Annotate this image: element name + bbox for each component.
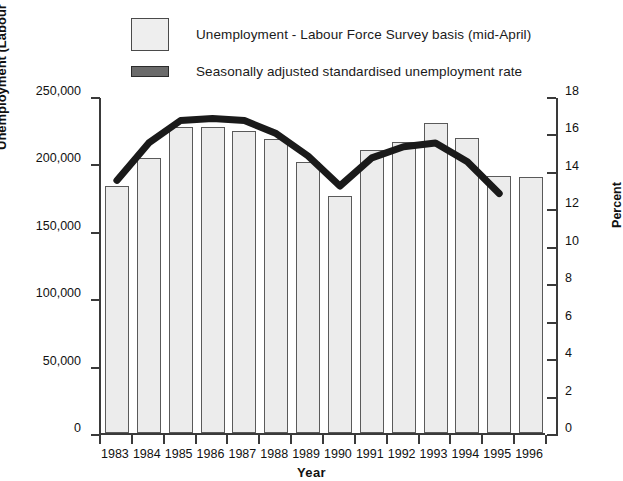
tick-mark [547, 97, 556, 99]
legend-item-rate: Seasonally adjusted standardised unemplo… [131, 64, 522, 79]
x-axis-label-1987: 1987 [228, 447, 256, 461]
bar-slot [165, 98, 197, 433]
tick-label: 50,000 [43, 354, 81, 368]
bar-slot [420, 98, 452, 433]
tick-mark [547, 209, 556, 211]
x-axis-tick [386, 435, 388, 444]
legend-item-label: Seasonally adjusted standardised unemplo… [196, 64, 522, 79]
bar-slot [451, 98, 483, 433]
tick-mark [547, 284, 556, 286]
x-axis-label-1995: 1995 [483, 447, 511, 461]
x-axis-tick [163, 435, 165, 444]
bar-1994[interactable] [455, 138, 479, 433]
tick-label: 2 [565, 384, 572, 398]
tick-label: 0 [565, 421, 572, 435]
tick-label: 8 [565, 271, 572, 285]
y-axis-left-title: Unemployment (Labour Force Survey Basis) [0, 0, 9, 150]
bar-slot [228, 98, 260, 433]
x-axis-label-1989: 1989 [292, 447, 320, 461]
bar-1993[interactable] [424, 123, 448, 433]
tick-label: 14 [565, 159, 579, 173]
x-axis-tick [545, 435, 547, 444]
tick-mark [547, 359, 556, 361]
legend-item-unemployment: Unemployment - Labour Force Survey basis… [131, 18, 531, 51]
bar-1984[interactable] [137, 158, 161, 433]
bar-1985[interactable] [169, 127, 193, 433]
bar-1990[interactable] [328, 196, 352, 433]
tick-mark [547, 434, 556, 436]
tick-label: 18 [565, 84, 579, 98]
x-axis-title: Year [0, 465, 623, 480]
bar-slot [133, 98, 165, 433]
bar-swatch-icon [131, 18, 169, 51]
line-swatch-icon [131, 66, 169, 77]
x-axis-tick [418, 435, 420, 444]
bar-1983[interactable] [105, 186, 129, 433]
bar-slot [292, 98, 324, 433]
chart-figure: Unemployment - Labour Force Survey basis… [0, 0, 623, 481]
bar-slot [388, 98, 420, 433]
tick-label: 200,000 [36, 151, 81, 165]
bar-slot [324, 98, 356, 433]
x-axis-tick [322, 435, 324, 444]
bar-slot [260, 98, 292, 433]
x-axis-tick [226, 435, 228, 444]
x-axis-label-1988: 1988 [260, 447, 288, 461]
x-axis-label-1986: 1986 [197, 447, 225, 461]
tick-mark [547, 397, 556, 399]
bar-1988[interactable] [264, 139, 288, 433]
tick-label: 0 [74, 421, 81, 435]
x-axis-label-1994: 1994 [451, 447, 479, 461]
x-axis-tick [195, 435, 197, 444]
x-axis-label-1993: 1993 [420, 447, 448, 461]
x-axis-tick [131, 435, 133, 444]
bar-1987[interactable] [232, 131, 256, 433]
tick-label: 6 [565, 309, 572, 323]
tick-label: 16 [565, 121, 579, 135]
tick-label: 4 [565, 346, 572, 360]
x-axis-tick [449, 435, 451, 444]
tick-mark [547, 172, 556, 174]
bar-1991[interactable] [360, 150, 384, 433]
x-axis-label-1991: 1991 [356, 447, 384, 461]
y-axis-right-title: Percent [610, 165, 623, 245]
bar-1989[interactable] [296, 162, 320, 433]
x-axis-label-1985: 1985 [165, 447, 193, 461]
x-axis-tick [99, 435, 101, 444]
bar-1995[interactable] [487, 176, 511, 433]
x-axis-tick [481, 435, 483, 444]
x-axis-label-1984: 1984 [133, 447, 161, 461]
tick-label: 100,000 [36, 286, 81, 300]
tick-mark [547, 322, 556, 324]
bar-slot [101, 98, 133, 433]
x-axis-label-1990: 1990 [324, 447, 352, 461]
bar-1986[interactable] [201, 127, 225, 433]
tick-label: 12 [565, 196, 579, 210]
bar-1996[interactable] [519, 177, 543, 433]
x-axis-tick [290, 435, 292, 444]
bar-1992[interactable] [392, 142, 416, 433]
x-axis-tick [354, 435, 356, 444]
bar-series [101, 98, 547, 433]
tick-mark [547, 134, 556, 136]
x-axis-label-1983: 1983 [101, 447, 129, 461]
plot-area [99, 98, 545, 435]
bar-slot [483, 98, 515, 433]
tick-mark [547, 247, 556, 249]
bar-slot [356, 98, 388, 433]
legend-item-label: Unemployment - Labour Force Survey basis… [196, 27, 531, 42]
tick-label: 150,000 [36, 219, 81, 233]
x-axis-tick [258, 435, 260, 444]
x-axis-tick [513, 435, 515, 444]
bar-slot [197, 98, 229, 433]
tick-label: 10 [565, 234, 579, 248]
x-axis-label-1992: 1992 [388, 447, 416, 461]
x-axis-label-1996: 1996 [515, 447, 543, 461]
y-axis-right-spine [556, 98, 558, 436]
bar-slot [515, 98, 547, 433]
tick-label: 250,000 [36, 84, 81, 98]
